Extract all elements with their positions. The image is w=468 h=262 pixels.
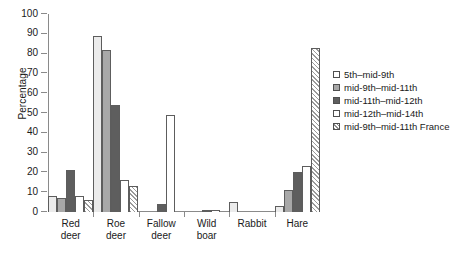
bar [66,170,75,212]
bar [57,198,66,212]
legend-swatch-icon [333,71,340,78]
y-axis-tick: 30 [41,152,47,153]
bar [202,210,211,212]
bar [111,105,120,212]
y-axis-tick: 0 [41,211,47,212]
bar [75,196,84,212]
x-axis-tick [275,212,276,217]
bar [93,36,102,212]
x-axis-tick [139,212,140,217]
y-axis-tick: 20 [41,171,47,172]
bar-group [275,14,320,212]
x-axis-tick [184,212,185,217]
y-axis-tick: 90 [41,33,47,34]
bar [302,166,311,212]
legend-item: mid-11th–mid-12th [333,94,467,107]
bar [102,50,111,212]
y-axis-tick: 40 [41,132,47,133]
bar [157,204,166,212]
y-axis-tick-label: 90 [27,28,38,38]
y-axis-tick-label: 0 [32,207,38,217]
y-axis-tick-label: 70 [27,68,38,78]
legend-item: mid-9th–mid-11th France [333,120,467,133]
bar [84,200,93,212]
bar [120,180,129,212]
plot-area: 0102030405060708090100 [48,14,320,212]
bar [275,206,284,212]
legend-item: 5th–mid-9th [333,68,467,81]
x-axis-label: Red deer [48,218,93,241]
x-axis-label: Wild boar [184,218,229,241]
bar-group [93,14,138,212]
bar-chart: Percentage 0102030405060708090100 Red de… [0,0,468,262]
y-axis-tick: 100 [41,13,47,14]
legend-item: mid-12th–mid-14th [333,107,467,120]
bar [311,48,320,212]
bar-group [139,14,184,212]
y-axis-tick-label: 30 [27,147,38,157]
y-axis-tick: 60 [41,92,47,93]
bar [129,186,138,212]
legend-item-label: mid-12th–mid-14th [344,108,423,119]
legend-item: mid-9th–mid-11th [333,81,467,94]
legend-swatch-icon [333,123,340,130]
legend-swatch-icon [333,110,340,117]
bar-group [48,14,93,212]
bar-group [184,14,229,212]
legend-swatch-icon [333,84,340,91]
y-axis-tick-label: 10 [27,187,38,197]
y-axis-tick: 50 [41,112,47,113]
y-axis-tick-label: 40 [27,127,38,137]
legend-swatch-icon [333,97,340,104]
x-axis-tick [93,212,94,217]
y-axis-title: Percentage [17,34,28,154]
legend-item-label: mid-9th–mid-11th [344,82,417,93]
y-axis-tick: 10 [41,191,47,192]
bar [293,172,302,212]
y-axis-tick: 70 [41,72,47,73]
bar-group [229,14,274,212]
x-axis-label: Hare [275,218,320,230]
legend-item-label: mid-11th–mid-12th [344,95,423,106]
y-axis-tick-label: 100 [21,9,38,19]
y-axis-tick-label: 80 [27,48,38,58]
y-axis-tick-label: 60 [27,88,38,98]
bar [284,190,293,212]
legend-item-label: 5th–mid-9th [344,69,394,80]
bar [229,202,238,212]
bar [211,210,220,212]
y-axis-tick: 80 [41,53,47,54]
bar [166,115,175,212]
y-axis-tick-label: 50 [27,108,38,118]
legend-item-label: mid-9th–mid-11th France [344,121,449,132]
bar [48,196,57,212]
y-axis-tick-label: 20 [27,167,38,177]
x-axis-label: Rabbit [229,218,274,230]
x-axis-label: Fallow deer [139,218,184,241]
x-axis-label: Roe deer [93,218,138,241]
x-axis-tick [229,212,230,217]
chart-legend: 5th–mid-9thmid-9th–mid-11thmid-11th–mid-… [333,68,467,133]
